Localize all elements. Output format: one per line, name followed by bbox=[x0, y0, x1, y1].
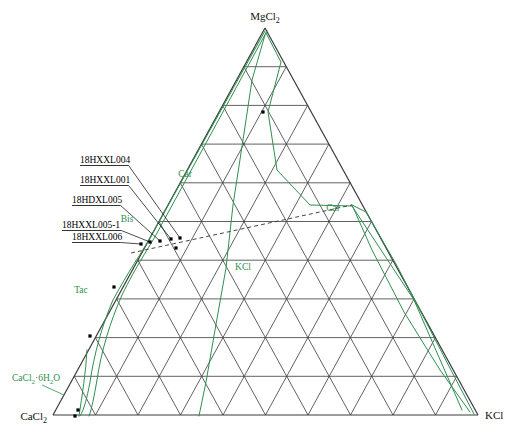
boundary-carnallite-right bbox=[352, 205, 470, 412]
ternary-diagram-container: 18HXXL00418HXXL00118HDXL00518HXXL005-118… bbox=[0, 0, 513, 430]
sample-label-18HXXL006: 18HXXL006 bbox=[72, 232, 122, 242]
data-point bbox=[169, 237, 172, 240]
phase-label-tac: Tac bbox=[74, 285, 88, 295]
vertex-label-cacl2: CaCl2 bbox=[20, 410, 47, 425]
vertex-label-kcl: KCl bbox=[485, 409, 503, 421]
grid-line-left-parallel bbox=[436, 376, 457, 415]
data-point bbox=[261, 110, 264, 113]
leader-line-18HXXL005-1 bbox=[121, 231, 150, 243]
data-point bbox=[178, 236, 181, 239]
data-point bbox=[148, 240, 151, 243]
grid-line-left-parallel bbox=[266, 222, 372, 416]
ternary-phase-diagram: 18HXXL00418HXXL00118HDXL00518HXXL005-118… bbox=[0, 0, 513, 430]
phase-label-car-left: Car bbox=[178, 169, 193, 179]
data-point bbox=[76, 408, 79, 411]
grid-line-left-parallel bbox=[96, 67, 287, 415]
leader-line-cacl2-6h2o bbox=[42, 385, 64, 395]
data-point bbox=[174, 246, 177, 249]
grid-line-left-parallel bbox=[351, 299, 415, 415]
sample-label-18HXXL005-1: 18HXXL005-1 bbox=[62, 220, 120, 230]
leader-line-18HXXL004 bbox=[129, 166, 180, 239]
data-point bbox=[112, 285, 115, 288]
data-point bbox=[139, 242, 142, 245]
grid-line-right-parallel bbox=[244, 67, 436, 415]
phase-label-car-right: Car bbox=[326, 203, 341, 213]
boundary-kcl-right bbox=[352, 205, 474, 414]
data-point bbox=[88, 334, 91, 337]
phase-label-cacl2-6h2o: CaCl2·6H2O bbox=[12, 373, 60, 386]
grid-line-right-parallel bbox=[159, 222, 266, 416]
data-point bbox=[158, 239, 161, 242]
sample-label-18HDXL005: 18HDXL005 bbox=[72, 195, 122, 205]
grid-line-right-parallel bbox=[117, 299, 181, 415]
data-point bbox=[73, 414, 76, 417]
grid-line-left-parallel bbox=[181, 144, 329, 415]
phase-label-kcl: KCl bbox=[235, 262, 251, 272]
sample-label-18HXXL004: 18HXXL004 bbox=[80, 155, 130, 165]
leader-line-18HXXL006 bbox=[121, 243, 141, 245]
sample-label-18HXXL001: 18HXXL001 bbox=[80, 175, 130, 185]
vertex-label-mgcl2: MgCl2 bbox=[250, 10, 280, 25]
phase-label-bis: Bis bbox=[121, 214, 134, 224]
boundary-kcl-left bbox=[199, 35, 265, 416]
